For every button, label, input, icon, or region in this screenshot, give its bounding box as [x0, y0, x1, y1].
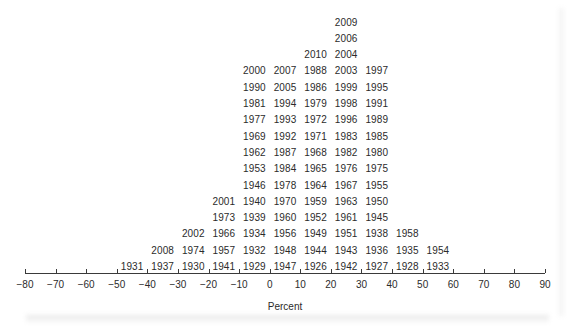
x-axis-tick-label: −30 — [169, 279, 186, 290]
x-axis-tick — [270, 269, 271, 273]
year-label: 1979 — [304, 98, 327, 109]
year-label: 1983 — [335, 130, 358, 141]
year-label: 1930 — [182, 261, 205, 272]
year-label: 1971 — [304, 130, 327, 141]
x-axis-tick-label: 70 — [478, 279, 489, 290]
year-label: 1951 — [335, 228, 358, 239]
year-label: 1942 — [335, 261, 358, 272]
year-label: 2004 — [335, 49, 358, 60]
year-label: 1997 — [365, 65, 388, 76]
year-label: 1989 — [365, 114, 388, 125]
x-axis-tick — [178, 269, 179, 273]
year-label: 1986 — [304, 81, 327, 92]
x-axis-tick — [56, 269, 57, 273]
year-label: 1959 — [304, 195, 327, 206]
year-label: 1972 — [304, 114, 327, 125]
year-label: 1999 — [335, 81, 358, 92]
x-axis-tick — [209, 269, 210, 273]
year-label: 1988 — [304, 65, 327, 76]
x-axis-tick-label: 50 — [417, 279, 428, 290]
x-axis-tick-label: 0 — [267, 279, 273, 290]
year-label: 1937 — [151, 261, 174, 272]
x-axis-tick — [239, 269, 240, 273]
x-axis-tick-label: −50 — [108, 279, 125, 290]
year-label: 1958 — [396, 228, 419, 239]
year-label: 1966 — [212, 228, 235, 239]
year-label: 1938 — [365, 228, 388, 239]
year-label: 1992 — [274, 130, 297, 141]
figure-container: −80−70−60−50−40−30−20−100102030405060708… — [0, 0, 567, 326]
year-label: 1963 — [335, 195, 358, 206]
x-axis-tick — [514, 269, 515, 273]
year-label: 1978 — [274, 179, 297, 190]
x-axis-tick-label: 30 — [356, 279, 367, 290]
dot-plot-canvas: −80−70−60−50−40−30−20−100102030405060708… — [0, 0, 567, 326]
year-label: 1973 — [212, 212, 235, 223]
year-label: 1948 — [274, 244, 297, 255]
year-label: 1980 — [365, 146, 388, 157]
year-label: 1998 — [335, 98, 358, 109]
x-axis-tick — [423, 269, 424, 273]
year-label: 1927 — [365, 261, 388, 272]
x-axis-title: Percent — [268, 301, 302, 312]
x-axis-tick-label: −10 — [231, 279, 248, 290]
year-label: 1975 — [365, 163, 388, 174]
x-axis-tick — [453, 269, 454, 273]
year-label: 1994 — [274, 98, 297, 109]
year-label: 1944 — [304, 244, 327, 255]
x-axis-tick — [361, 269, 362, 273]
year-label: 1993 — [274, 114, 297, 125]
year-label: 1955 — [365, 179, 388, 190]
x-axis-tick — [392, 269, 393, 273]
year-label: 1991 — [365, 98, 388, 109]
year-label: 1940 — [243, 195, 266, 206]
year-label: 1928 — [396, 261, 419, 272]
year-label: 2005 — [274, 81, 297, 92]
year-label: 2002 — [182, 228, 205, 239]
year-label: 1956 — [274, 228, 297, 239]
year-label: 1941 — [212, 261, 235, 272]
x-axis-tick-label: −80 — [17, 279, 34, 290]
year-label: 1976 — [335, 163, 358, 174]
year-label: 1939 — [243, 212, 266, 223]
x-axis-tick-label: −40 — [139, 279, 156, 290]
year-label: 1981 — [243, 98, 266, 109]
year-label: 1952 — [304, 212, 327, 223]
year-label: 2009 — [335, 16, 358, 27]
x-axis-tick — [545, 269, 546, 273]
x-axis-tick-label: 20 — [325, 279, 336, 290]
year-label: 1977 — [243, 114, 266, 125]
x-axis-tick-label: 80 — [509, 279, 520, 290]
year-label: 1965 — [304, 163, 327, 174]
year-label: 1936 — [365, 244, 388, 255]
x-axis-tick — [300, 269, 301, 273]
year-label: 1932 — [243, 244, 266, 255]
x-axis-tick — [86, 269, 87, 273]
year-label: 2003 — [335, 65, 358, 76]
year-label: 1970 — [274, 195, 297, 206]
x-axis-tick — [117, 269, 118, 273]
year-label: 2000 — [243, 65, 266, 76]
year-label: 1987 — [274, 146, 297, 157]
year-label: 1929 — [243, 261, 266, 272]
x-axis-line — [25, 273, 545, 274]
year-label: 1946 — [243, 179, 266, 190]
year-label: 1995 — [365, 81, 388, 92]
year-label: 1935 — [396, 244, 419, 255]
x-axis-tick-label: 10 — [295, 279, 306, 290]
x-axis-tick-label: 90 — [539, 279, 550, 290]
year-label: 2001 — [212, 195, 235, 206]
year-label: 1996 — [335, 114, 358, 125]
year-label: 1943 — [335, 244, 358, 255]
year-label: 1990 — [243, 81, 266, 92]
year-label: 1957 — [212, 244, 235, 255]
year-label: 1961 — [335, 212, 358, 223]
x-axis-tick-label: −70 — [47, 279, 64, 290]
year-label: 1933 — [427, 261, 450, 272]
year-label: 1949 — [304, 228, 327, 239]
year-label: 1962 — [243, 146, 266, 157]
year-label: 1931 — [121, 261, 144, 272]
x-axis-tick — [25, 269, 26, 273]
x-axis-tick-label: 40 — [386, 279, 397, 290]
year-label: 1967 — [335, 179, 358, 190]
